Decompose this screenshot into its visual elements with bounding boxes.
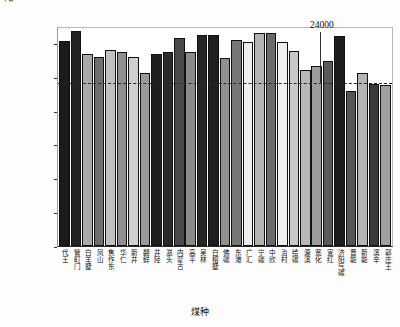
bar-15 [220, 58, 231, 246]
bar-28 [369, 84, 380, 246]
x-tick-label-28: 滨辛 [369, 249, 380, 301]
x-tick-label-15: 佛碳 [220, 249, 231, 301]
bar-23 [311, 66, 322, 246]
bar-29 [380, 85, 391, 246]
bar-7 [128, 57, 139, 246]
x-tick-label-12: 高平 [185, 249, 196, 301]
x-tick-label-4: 凤山 [93, 249, 104, 301]
bar-24 [323, 61, 334, 246]
bar-11 [174, 38, 185, 246]
bar-4 [94, 57, 105, 246]
x-tick-label-13: 吴林 [197, 249, 208, 301]
x-tick-label-23: 宽化 [312, 249, 323, 301]
x-tick-label-2: 管町门 [70, 249, 81, 301]
y-axis-title: 高位发热值/J·g-1 [2, 0, 15, 50]
x-tick-label-8: 翻鲜 [139, 249, 150, 301]
bar-19 [266, 33, 277, 246]
x-tick-label-10: 滋头 [162, 249, 173, 301]
x-tick-label-14: 白榕墅 [208, 249, 219, 301]
bar-13 [197, 35, 208, 246]
bar-series [58, 28, 392, 246]
x-tick-label-26: 晋能 [346, 249, 357, 301]
annotation-leader-line [320, 32, 321, 84]
x-tick-label-6: 华仁 [116, 249, 127, 301]
bar-10 [163, 52, 174, 246]
y-tick-mark-0 [54, 247, 57, 248]
x-tick-label-11: 内蒙古 [174, 249, 185, 301]
bar-26 [346, 91, 357, 246]
bar-14 [208, 35, 219, 246]
chart-figure: 高位发热值/J·g-1 0500010000150002000025000300… [0, 0, 400, 327]
x-tick-label-1: 代王 [58, 249, 69, 301]
x-tick-label-24: 宣红 [323, 249, 334, 301]
x-tick-label-17: 广汇 [243, 249, 254, 301]
plot-area: 24000 [57, 27, 393, 247]
x-tick-label-16: 东港 [231, 249, 242, 301]
bar-5 [105, 50, 116, 246]
x-tick-label-27: 新能 [358, 249, 369, 301]
bar-20 [277, 42, 288, 246]
bar-21 [289, 51, 300, 246]
x-tick-label-5: 焦作东 [105, 249, 116, 301]
x-tick-label-21: 给碳 [289, 249, 300, 301]
x-axis-title: 煤种 [0, 305, 400, 318]
bar-27 [357, 73, 368, 246]
bar-25 [334, 36, 345, 246]
y-axis-title-text: 高位发热值/J·g [4, 0, 14, 2]
x-tick-label-3: 白羊墅 [81, 249, 92, 301]
reference-line-24000 [58, 83, 392, 84]
x-tick-label-25: 济阳气碳 [335, 249, 346, 301]
x-tick-label-20: 治村 [277, 249, 288, 301]
x-tick-label-9: 井陉 [151, 249, 162, 301]
x-tick-label-7: 新井 [128, 249, 139, 301]
bar-1 [59, 41, 70, 246]
x-tick-label-19: 中欣 [266, 249, 277, 301]
bar-8 [140, 73, 151, 246]
x-tick-label-29: 郭庄王 [381, 249, 392, 301]
bar-17 [243, 42, 254, 246]
bar-12 [185, 52, 196, 246]
x-tick-label-22: 源滨 [300, 249, 311, 301]
x-tick-label-18: 宁碳 [254, 249, 265, 301]
bar-2 [71, 31, 82, 246]
bar-22 [300, 70, 311, 246]
bar-16 [231, 40, 242, 246]
annotation-24000: 24000 [310, 20, 334, 30]
x-axis-labels: 代王管町门白羊墅凤山焦作东华仁新井翻鲜井陉滋头内蒙古高平吴林白榕墅佛碳东港广汇宁… [57, 249, 393, 301]
bar-18 [254, 33, 265, 246]
bar-6 [117, 52, 128, 246]
